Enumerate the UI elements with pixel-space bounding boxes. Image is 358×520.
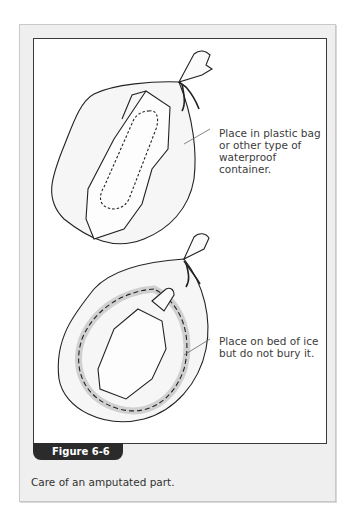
amputated-part-illustration [34, 39, 325, 442]
bagged-part-illustration [52, 51, 212, 244]
callout-plastic-bag: Place in plastic bag or other type of wa… [219, 127, 326, 175]
callout-bed-of-ice: Place on bed of ice but do not bury it. [219, 335, 318, 359]
figure-label: Figure 6-6 [33, 443, 123, 460]
figure-frame: Place in plastic bag or other type of wa… [19, 24, 336, 502]
figure-caption: Care of an amputated part. [31, 476, 175, 488]
illustration-panel: Place in plastic bag or other type of wa… [33, 38, 327, 444]
bag-on-ice-illustration [58, 234, 210, 422]
